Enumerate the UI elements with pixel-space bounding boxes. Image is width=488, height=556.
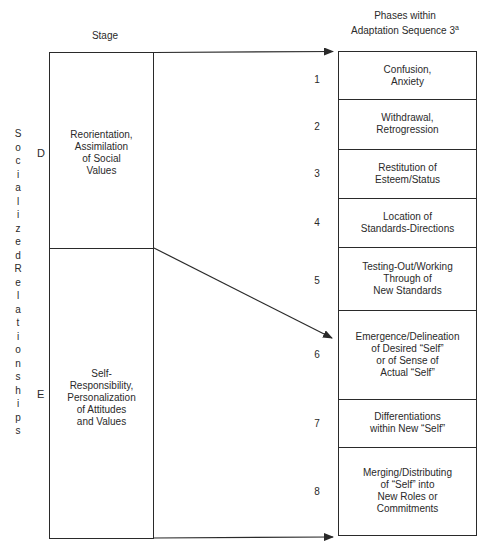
arrow-top xyxy=(154,52,333,53)
arrow-diagonal xyxy=(154,248,332,338)
arrow-bottom xyxy=(154,537,333,538)
connector-arrows xyxy=(0,0,488,556)
